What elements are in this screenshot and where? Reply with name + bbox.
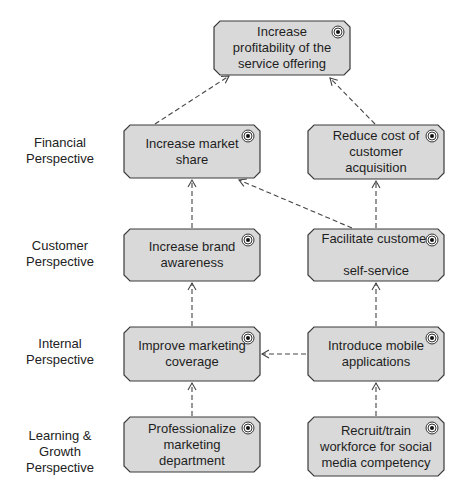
node-label: Introduce mobile applications: [313, 326, 439, 382]
goal-icon: [241, 233, 255, 247]
node-increase-profitability[interactable]: Increase profitability of the service of…: [213, 20, 351, 76]
edge-reduce-cost-to-top: [330, 78, 375, 124]
goal-icon: [241, 421, 255, 435]
node-label: Increase profitability of the service of…: [219, 20, 345, 76]
lane-label-internal: Internal Perspective: [5, 336, 115, 368]
node-label: Increase brand awareness: [129, 228, 255, 282]
goal-icon: [241, 129, 255, 143]
goal-icon: [425, 331, 439, 345]
node-recruit-train-workforce[interactable]: Recruit/train workforce for social media…: [307, 416, 445, 477]
lane-label-financial: Financial Perspective: [5, 135, 115, 167]
edge-self-service-to-market-share: [239, 180, 352, 228]
node-label: Increase market share: [129, 124, 255, 179]
goal-icon: [331, 25, 345, 39]
strategy-map-diagram: Financial Perspective Customer Perspecti…: [0, 0, 464, 495]
node-introduce-mobile-apps[interactable]: Introduce mobile applications: [307, 326, 445, 382]
node-reduce-cost[interactable]: Reduce cost of customer acquisition: [307, 124, 445, 180]
node-label: Reduce cost of customer acquisition: [313, 124, 439, 180]
node-label: Improve marketing coverage: [129, 326, 255, 382]
node-label: Facilitate customer self-service: [313, 228, 439, 282]
node-improve-marketing-coverage[interactable]: Improve marketing coverage: [123, 326, 261, 382]
lane-label-learning: Learning & Growth Perspective: [5, 428, 115, 476]
goal-icon: [241, 331, 255, 345]
goal-icon: [425, 129, 439, 143]
node-increase-market-share[interactable]: Increase market share: [123, 124, 261, 179]
node-facilitate-self-service[interactable]: Facilitate customer self-service: [307, 228, 445, 282]
goal-icon: [425, 233, 439, 247]
node-professionalize-marketing[interactable]: Professionalize marketing department: [123, 416, 261, 473]
node-increase-brand-awareness[interactable]: Increase brand awareness: [123, 228, 261, 282]
node-label: Professionalize marketing department: [129, 416, 255, 473]
edge-market-share-to-top: [155, 76, 229, 124]
lane-label-customer: Customer Perspective: [5, 238, 115, 270]
node-label: Recruit/train workforce for social media…: [313, 416, 439, 477]
goal-icon: [425, 421, 439, 435]
